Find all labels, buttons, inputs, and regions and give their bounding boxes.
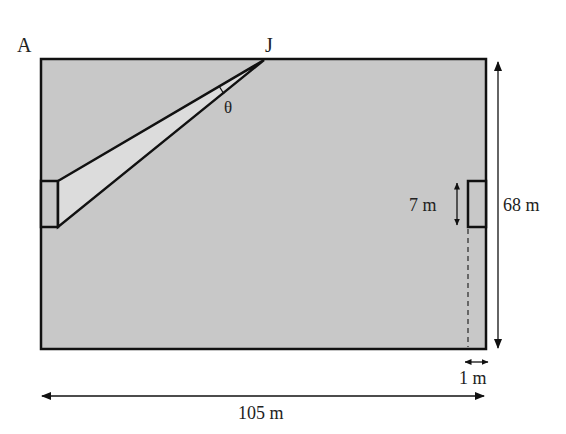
label-goal-width: 7 m (409, 195, 437, 215)
label-theta: θ (224, 98, 232, 117)
right-goal (468, 181, 486, 227)
label-offset: 1 m (459, 368, 487, 388)
label-j: J (265, 34, 273, 56)
label-pitch-length: 105 m (238, 403, 284, 423)
pitch-diagram: A J θ 7 m 68 m 1 m 105 m (0, 0, 566, 434)
label-a: A (17, 34, 32, 56)
left-goal (41, 181, 58, 227)
label-pitch-width: 68 m (503, 195, 540, 215)
